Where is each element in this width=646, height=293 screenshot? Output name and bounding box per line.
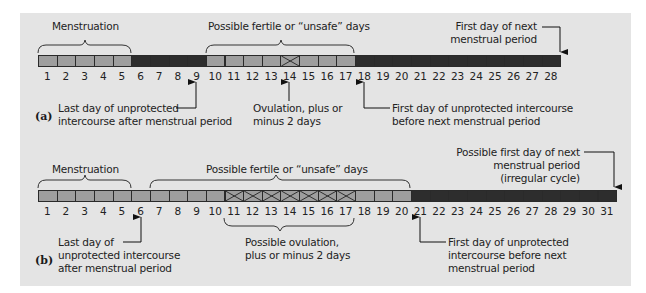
brace-ovulation-b xyxy=(224,218,354,231)
annotation-overlay xyxy=(0,0,646,293)
arrow-next-period-a xyxy=(542,27,560,52)
arrow-next-period-b xyxy=(584,152,614,187)
brace-menstruation-b xyxy=(38,175,131,188)
brace-fertile-b xyxy=(150,175,410,188)
brace-fertile-a xyxy=(206,40,354,53)
arrow-first-day-b xyxy=(420,217,446,242)
arrow-last-day-a xyxy=(176,82,196,108)
arrow-first-day-a xyxy=(364,82,390,108)
brace-menstruation-a xyxy=(38,40,131,53)
arrow-last-day-b xyxy=(123,217,141,242)
